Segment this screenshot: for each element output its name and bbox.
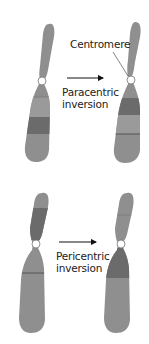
inversion-diagram <box>0 0 149 344</box>
centromere-pointer-line <box>113 52 128 76</box>
paracentric-label-line2: inversion <box>62 98 108 110</box>
centromere-icon <box>32 240 40 248</box>
centromere-icon <box>117 240 125 248</box>
centromere-label: Centromere <box>70 38 130 50</box>
paracentric-label-line1: Paracentric <box>62 86 119 98</box>
pericentric-label-line2: inversion <box>56 262 102 274</box>
centromere-icon <box>127 76 135 84</box>
chromosome-pericentric-before <box>10 193 55 333</box>
pericentric-label-line1: Pericentric <box>56 250 109 262</box>
centromere-icon <box>38 77 46 85</box>
chromosome-paracentric-before <box>20 24 60 162</box>
